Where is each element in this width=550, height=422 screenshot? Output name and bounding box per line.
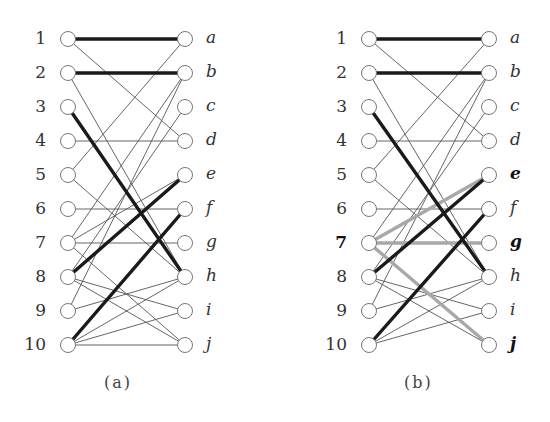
left-node-6 <box>61 202 76 217</box>
left-label-2: 2 <box>16 64 46 81</box>
left-node-1 <box>61 32 76 47</box>
panel-b <box>362 32 497 353</box>
edge-1-d <box>369 39 489 141</box>
right-label-c: c <box>510 97 520 114</box>
left-label-1: 1 <box>16 30 46 47</box>
right-label-g: g <box>510 233 522 250</box>
right-node-h <box>482 270 497 285</box>
right-node-a <box>482 32 497 47</box>
panel-a <box>61 32 193 353</box>
left-label-10: 10 <box>317 336 347 353</box>
right-node-c <box>482 100 497 115</box>
left-label-2: 2 <box>317 64 347 81</box>
left-node-9 <box>362 304 377 319</box>
right-label-i: i <box>206 301 211 318</box>
edge-7-b <box>68 73 185 243</box>
right-label-j: j <box>510 335 516 352</box>
caption-a: (a) <box>104 373 132 392</box>
left-node-3 <box>362 100 377 115</box>
right-label-g: g <box>206 233 217 250</box>
right-label-e: e <box>206 165 216 182</box>
left-label-3: 3 <box>16 98 46 115</box>
right-label-h: h <box>510 267 521 284</box>
right-node-d <box>178 134 193 149</box>
right-node-f <box>482 202 497 217</box>
left-node-9 <box>61 304 76 319</box>
right-node-c <box>178 100 193 115</box>
left-label-8: 8 <box>16 268 46 285</box>
left-label-9: 9 <box>317 302 347 319</box>
right-label-e: e <box>510 165 521 182</box>
edge-10-i <box>68 311 185 345</box>
left-node-10 <box>362 338 377 353</box>
caption-b: (b) <box>404 373 433 392</box>
edge-1-d <box>68 39 185 141</box>
edge-7-b <box>369 73 489 243</box>
left-node-3 <box>61 100 76 115</box>
right-node-b <box>482 66 497 81</box>
right-node-e <box>482 168 497 183</box>
left-label-4: 4 <box>16 132 46 149</box>
left-label-1: 1 <box>317 30 347 47</box>
right-label-d: d <box>206 131 217 148</box>
edge-2-h <box>369 73 489 277</box>
edge-10-f <box>369 209 489 345</box>
left-label-6: 6 <box>317 200 347 217</box>
right-label-b: b <box>206 63 217 80</box>
left-node-5 <box>362 168 377 183</box>
right-node-a <box>178 32 193 47</box>
left-label-4: 4 <box>317 132 347 149</box>
left-label-10: 10 <box>16 336 46 353</box>
edge-5-a <box>68 39 185 175</box>
left-node-4 <box>362 134 377 149</box>
right-label-a: a <box>206 29 216 46</box>
right-label-a: a <box>510 29 520 46</box>
left-node-2 <box>61 66 76 81</box>
right-node-d <box>482 134 497 149</box>
left-node-2 <box>362 66 377 81</box>
right-node-h <box>178 270 193 285</box>
edge-2-h <box>68 73 185 277</box>
edges-layer <box>0 0 550 422</box>
left-node-7 <box>362 236 377 251</box>
left-node-8 <box>362 270 377 285</box>
edge-10-f <box>68 209 185 345</box>
left-node-8 <box>61 270 76 285</box>
right-node-g <box>482 236 497 251</box>
left-label-5: 5 <box>16 166 46 183</box>
edge-5-a <box>369 39 489 175</box>
left-label-8: 8 <box>317 268 347 285</box>
left-label-3: 3 <box>317 98 347 115</box>
left-node-10 <box>61 338 76 353</box>
right-node-g <box>178 236 193 251</box>
left-node-6 <box>362 202 377 217</box>
left-label-7: 7 <box>317 234 347 251</box>
edge-7-j <box>369 243 489 345</box>
left-label-7: 7 <box>16 234 46 251</box>
left-node-5 <box>61 168 76 183</box>
right-label-f: f <box>206 199 212 216</box>
right-node-f <box>178 202 193 217</box>
left-node-7 <box>61 236 76 251</box>
right-label-j: j <box>206 335 211 352</box>
right-node-i <box>482 304 497 319</box>
right-label-b: b <box>510 63 521 80</box>
right-node-j <box>482 338 497 353</box>
right-node-b <box>178 66 193 81</box>
right-node-e <box>178 168 193 183</box>
right-label-c: c <box>206 97 216 114</box>
right-label-i: i <box>510 301 515 318</box>
left-node-1 <box>362 32 377 47</box>
right-node-j <box>178 338 193 353</box>
left-label-5: 5 <box>317 166 347 183</box>
right-label-f: f <box>510 199 516 216</box>
right-label-d: d <box>510 131 521 148</box>
left-label-6: 6 <box>16 200 46 217</box>
bipartite-figure: 12345678910abcdefghij(a)12345678910abcde… <box>0 0 550 422</box>
right-label-h: h <box>206 267 217 284</box>
left-node-4 <box>61 134 76 149</box>
left-label-9: 9 <box>16 302 46 319</box>
right-node-i <box>178 304 193 319</box>
